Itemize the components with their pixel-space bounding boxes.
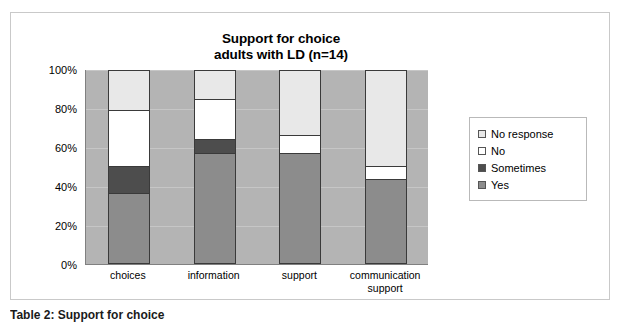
y-axis-tick-label: 100%: [49, 64, 77, 76]
legend-item-label: Sometimes: [491, 162, 546, 174]
x-axis-tick-line: communication: [342, 269, 428, 282]
legend-swatch-icon: [478, 130, 486, 138]
x-axis-tick-label: support: [257, 269, 343, 282]
bar-segment: [366, 180, 406, 263]
legend-item[interactable]: No: [478, 142, 580, 159]
legend-item[interactable]: No response: [478, 125, 580, 142]
y-axis-tick-label: 60%: [55, 142, 77, 154]
legend-item-label: Yes: [491, 179, 509, 191]
bar-segment: [366, 71, 406, 167]
x-axis-tick-label: communicationsupport: [342, 269, 428, 295]
bar-group: [194, 70, 236, 264]
x-axis: choicesinformationsupportcommunicationsu…: [85, 269, 428, 303]
x-axis-tick-line: choices: [85, 269, 171, 282]
y-axis-tick-label: 80%: [55, 103, 77, 115]
bar-segment: [366, 167, 406, 180]
legend-swatch-icon: [478, 181, 486, 189]
bar-segment: [195, 140, 235, 153]
x-axis-tick-line: support: [342, 282, 428, 295]
bar-segment: [109, 111, 149, 167]
chart-legend: No responseNoSometimesYes: [469, 117, 587, 201]
stacked-bar[interactable]: [194, 70, 236, 264]
legend-item[interactable]: Sometimes: [478, 159, 580, 176]
caption-text: Table 2: Support for choice: [10, 308, 440, 322]
bar-segment: [280, 136, 320, 153]
plot-area: [85, 70, 428, 265]
chart-figure: Support for choice adults with LD (n=14)…: [10, 12, 610, 300]
legend-item-label: No response: [491, 128, 553, 140]
bar-segment: [109, 71, 149, 111]
bar-group: [279, 70, 321, 264]
bar-segment: [109, 194, 149, 263]
bar-segment: [109, 167, 149, 194]
legend-item-label: No: [491, 145, 505, 157]
x-axis-tick-line: support: [257, 269, 343, 282]
chart-title-line-1: Support for choice: [131, 31, 431, 47]
stacked-bar[interactable]: [365, 70, 407, 264]
legend-swatch-icon: [478, 164, 486, 172]
legend-swatch-icon: [478, 147, 486, 155]
caption-strip: Table 2: Support for choice: [10, 308, 440, 322]
bar-group: [108, 70, 150, 264]
y-axis-tick-label: 40%: [55, 181, 77, 193]
y-axis: 0%20%40%60%80%100%: [29, 70, 81, 265]
bar-segment: [280, 71, 320, 136]
x-axis-tick-line: information: [171, 269, 257, 282]
legend-item[interactable]: Yes: [478, 176, 580, 193]
bar-segment: [195, 154, 235, 263]
bar-group: [365, 70, 407, 264]
x-axis-tick-label: information: [171, 269, 257, 282]
bar-segment: [195, 100, 235, 140]
x-axis-tick-label: choices: [85, 269, 171, 282]
stacked-bar[interactable]: [108, 70, 150, 264]
bar-series-container: [86, 70, 428, 264]
chart-title: Support for choice adults with LD (n=14): [131, 31, 431, 63]
y-axis-tick-label: 0%: [61, 259, 77, 271]
stacked-bar[interactable]: [279, 70, 321, 264]
y-axis-tick-label: 20%: [55, 220, 77, 232]
bar-segment: [195, 71, 235, 100]
bar-segment: [280, 154, 320, 263]
chart-title-line-2: adults with LD (n=14): [131, 47, 431, 63]
